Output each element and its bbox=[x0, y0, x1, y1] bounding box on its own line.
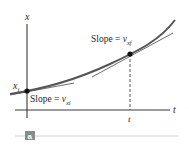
position-curve bbox=[10, 20, 175, 94]
slope-final-label: Slope = vxf bbox=[91, 34, 133, 46]
slope-initial-label: Slope = vxi bbox=[30, 94, 71, 106]
time-tick-label: t bbox=[128, 114, 131, 124]
horizontal-axis-label: t bbox=[173, 104, 176, 115]
position-time-diagram: x t xi t Slope = vxi Slope = vxf a bbox=[0, 0, 189, 146]
final-point-dot bbox=[127, 51, 132, 56]
vertical-axis-label: x bbox=[24, 11, 30, 22]
initial-position-label: xi bbox=[12, 80, 19, 94]
initial-point-dot bbox=[24, 88, 29, 93]
panel-badge-label: a bbox=[28, 132, 33, 141]
